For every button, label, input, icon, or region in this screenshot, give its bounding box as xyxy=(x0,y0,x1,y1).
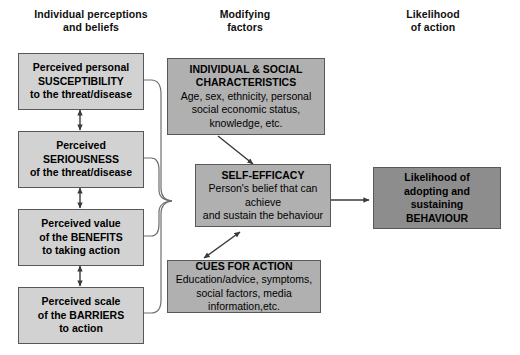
column-title-line1: Individual perceptions xyxy=(34,8,148,20)
node-line2: of the BENEFITS xyxy=(23,231,139,245)
column-title-line2: and beliefs xyxy=(63,21,119,33)
arrow-characteristics-to-selfefficacy xyxy=(218,136,253,164)
column-title-likelihood-of-action: Likelihood of action xyxy=(368,8,498,34)
column-title-modifying-factors: Modifying factors xyxy=(180,8,310,34)
node-line2: SERIOUSNESS xyxy=(23,153,139,167)
node-perceived-susceptibility[interactable]: Perceived personal SUSCEPTIBILITY to the… xyxy=(18,53,144,110)
node-title: CUES FOR ACTION xyxy=(172,260,316,274)
column-title-individual-perceptions: Individual perceptions and beliefs xyxy=(8,8,174,34)
node-line1: Perceived scale xyxy=(23,295,139,309)
node-line3: to taking action xyxy=(23,244,139,258)
node-line3: BEHAVIOUR xyxy=(378,212,496,226)
node-body-line1: Education/advice, symptoms, xyxy=(172,273,316,287)
column-title-line1: Likelihood xyxy=(406,8,460,20)
node-body-line3: information,etc. xyxy=(172,300,316,314)
node-likelihood-of-behaviour[interactable]: Likelihood of adopting and sustaining BE… xyxy=(373,167,501,229)
node-body-line2: social economic status, xyxy=(172,103,320,117)
node-cues-for-action[interactable]: CUES FOR ACTION Education/advice, sympto… xyxy=(167,260,321,313)
node-body-line2: and sustain the behaviour xyxy=(200,209,326,223)
node-title: SELF-EFFICACY xyxy=(200,169,326,183)
column-title-line1: Modifying xyxy=(220,8,270,20)
arrow-selfefficacy-cues xyxy=(204,232,240,258)
column-title-line2: of action xyxy=(411,21,456,33)
node-self-efficacy[interactable]: SELF-EFFICACY Person's belief that can a… xyxy=(195,164,331,227)
node-line1: Likelihood of xyxy=(378,171,496,185)
node-line2: of the BARRIERS xyxy=(23,309,139,323)
node-line1: Perceived value xyxy=(23,217,139,231)
node-title-line2: CHARACTERISTICS xyxy=(172,76,320,90)
node-perceived-benefits[interactable]: Perceived value of the BENEFITS to takin… xyxy=(18,209,144,266)
curve-benefits-to-selfefficacy xyxy=(143,201,172,236)
node-line1: Perceived xyxy=(23,139,139,153)
column-title-line2: factors xyxy=(227,21,263,33)
curve-seriousness-to-selfefficacy xyxy=(143,158,172,201)
node-body-line1: Person's belief that can achieve xyxy=(200,182,326,209)
node-body-line1: Age, sex, ethnicity, personal xyxy=(172,90,320,104)
node-perceived-barriers[interactable]: Perceived scale of the BARRIERS to actio… xyxy=(18,287,144,344)
node-line2: SUSCEPTIBILITY xyxy=(23,75,139,89)
node-line3: to the threat/disease xyxy=(23,88,139,102)
diagram-canvas: Individual perceptions and beliefs Modif… xyxy=(0,0,520,355)
node-individual-social-characteristics[interactable]: INDIVIDUAL & SOCIAL CHARACTERISTICS Age,… xyxy=(167,58,325,135)
node-line2: adopting and sustaining xyxy=(378,185,496,212)
node-title-line1: INDIVIDUAL & SOCIAL xyxy=(172,63,320,77)
node-line1: Perceived personal xyxy=(23,61,139,75)
node-body-line2: social factors, media xyxy=(172,287,316,301)
node-line3: of the threat/disease xyxy=(23,166,139,180)
node-perceived-seriousness[interactable]: Perceived SERIOUSNESS of the threat/dise… xyxy=(18,131,144,188)
node-body-line3: knowledge, etc. xyxy=(172,117,320,131)
node-line3: to action xyxy=(23,322,139,336)
